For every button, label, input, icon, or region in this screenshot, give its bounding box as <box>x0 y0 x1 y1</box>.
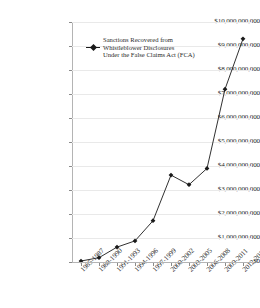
series-line <box>81 39 243 261</box>
chart-legend: Sanctions Recovered from Whistleblower D… <box>86 36 195 59</box>
legend-label-line-1: Sanctions Recovered from <box>103 36 173 43</box>
chart-container: $0$1,000,000,000$2,000,000,000$3,000,000… <box>0 0 260 308</box>
x-axis-line <box>72 262 252 263</box>
data-point-marker <box>241 36 246 41</box>
data-point-marker <box>169 173 174 178</box>
legend-label-line-2: Whistleblower Disclosures <box>103 44 174 51</box>
legend-label-line-3: Under the False Claims Act (FCA) <box>103 51 195 58</box>
legend-marker-icon <box>86 43 100 52</box>
data-point-marker <box>223 87 228 92</box>
legend-label-block: Sanctions Recovered from Whistleblower D… <box>103 36 195 59</box>
